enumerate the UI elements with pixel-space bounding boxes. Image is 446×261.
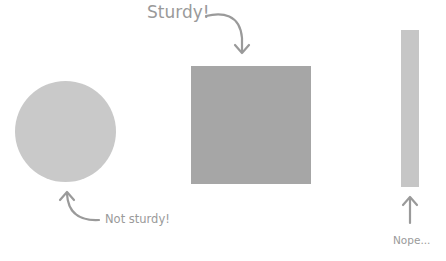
arrow-up-icon (403, 197, 417, 223)
arrows-layer (0, 0, 446, 261)
curved-arrow-up-icon (60, 192, 99, 220)
curved-arrow-down-icon (206, 14, 249, 53)
